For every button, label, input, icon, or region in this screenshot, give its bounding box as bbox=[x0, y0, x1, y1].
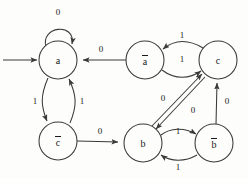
edge-b_bar-to-b bbox=[161, 155, 197, 160]
edge-c-to-b bbox=[156, 77, 205, 129]
node-c-bar[interactable] bbox=[39, 122, 77, 160]
edge-b_bar-to-c bbox=[216, 83, 217, 124]
node-b[interactable] bbox=[124, 124, 162, 162]
diagram-vector-layer bbox=[0, 0, 248, 179]
edge-b-to-c bbox=[152, 74, 202, 126]
edge-c_bar-to-a bbox=[69, 79, 75, 123]
node-a[interactable] bbox=[39, 41, 77, 79]
edge-c-to-a_bar bbox=[163, 42, 203, 49]
node-c[interactable] bbox=[199, 41, 237, 79]
edge-a-to-c_bar bbox=[42, 78, 48, 121]
edge-c_bar-to-b bbox=[77, 141, 118, 142]
edge-a_bar-to-c bbox=[162, 70, 201, 77]
edge-b-to-b_bar bbox=[161, 129, 196, 135]
node-a-bar[interactable] bbox=[126, 41, 164, 79]
node-b-bar[interactable] bbox=[195, 124, 233, 162]
state-diagram-canvas: a a c c b b 0 0 1 1 0 1 1 0 0 bbox=[0, 0, 248, 179]
